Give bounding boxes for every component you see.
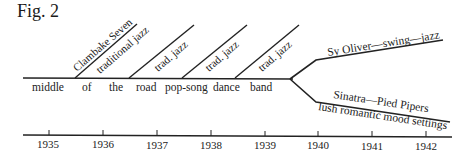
- year-1939: 1939: [254, 139, 277, 151]
- main-label-road: road: [136, 81, 157, 93]
- main-line: [23, 78, 293, 79]
- main-label-pop-song: pop-song: [165, 81, 208, 94]
- year-1935: 1935: [37, 138, 60, 150]
- main-label-of: of: [82, 81, 92, 93]
- year-1941: 1941: [361, 140, 383, 152]
- year-1938: 1938: [200, 139, 223, 151]
- main-label-dance: dance: [213, 81, 240, 93]
- year-1940: 1940: [307, 139, 330, 151]
- main-label-band: band: [250, 81, 273, 93]
- year-1942: 1942: [415, 140, 437, 152]
- year-1937: 1937: [146, 139, 169, 151]
- branch-label-trad-jazz-2: trad. jazz: [202, 38, 240, 74]
- main-label-the: the: [109, 81, 123, 93]
- year-1936: 1936: [92, 138, 115, 150]
- branch-line-3: [182, 25, 247, 78]
- timeline-axis: [23, 135, 452, 137]
- main-label-middle: middle: [32, 81, 64, 93]
- style-evolution-diagram: Clambake Seven traditional jazz trad. ja…: [0, 0, 470, 160]
